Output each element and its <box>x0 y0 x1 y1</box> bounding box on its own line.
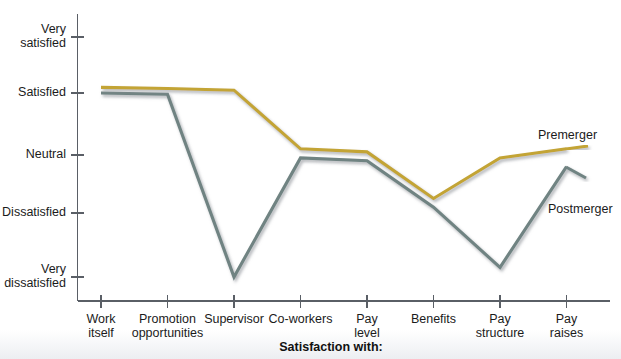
y-label-line1: Very <box>0 263 66 277</box>
y-label-line1: Neutral <box>0 148 66 162</box>
axis-lines <box>78 14 611 301</box>
series-line-postmerger <box>101 93 567 277</box>
y-label-line1: Satisfied <box>0 86 66 100</box>
y-axis-label-very-satisfied: Very satisfied <box>0 23 66 50</box>
x-label-line2: raises <box>528 326 605 340</box>
x-axis-label-pay-raises: Pay raises <box>528 312 605 340</box>
legend-leader-lines <box>566 146 588 178</box>
x-label-line1: Pay <box>528 312 605 326</box>
x-label-line2: level <box>331 326 403 340</box>
y-label-line2: satisfied <box>0 37 66 51</box>
y-label-line1: Very <box>0 23 66 37</box>
premerger-leader-line <box>566 146 588 149</box>
postmerger-leader-line <box>566 167 586 178</box>
satisfaction-line-chart: Very satisfied Satisfied Neutral Dissati… <box>0 0 621 359</box>
x-label-line2: opportunities <box>110 326 225 340</box>
y-label-line2: dissatisfied <box>0 277 66 291</box>
y-label-line1: Dissatisfied <box>0 206 66 220</box>
y-axis-label-satisfied: Satisfied <box>0 86 66 100</box>
chart-plot-area <box>0 0 621 359</box>
y-axis-label-dissatisfied: Dissatisfied <box>0 206 66 220</box>
legend-label-postmerger: Postmerger <box>548 202 613 216</box>
x-axis-title: Satisfaction with: <box>231 340 431 354</box>
series-group <box>101 87 567 277</box>
y-axis-label-neutral: Neutral <box>0 148 66 162</box>
y-axis-label-very-dissatisfied: Very dissatisfied <box>0 263 66 290</box>
legend-label-premerger: Premerger <box>538 128 597 142</box>
